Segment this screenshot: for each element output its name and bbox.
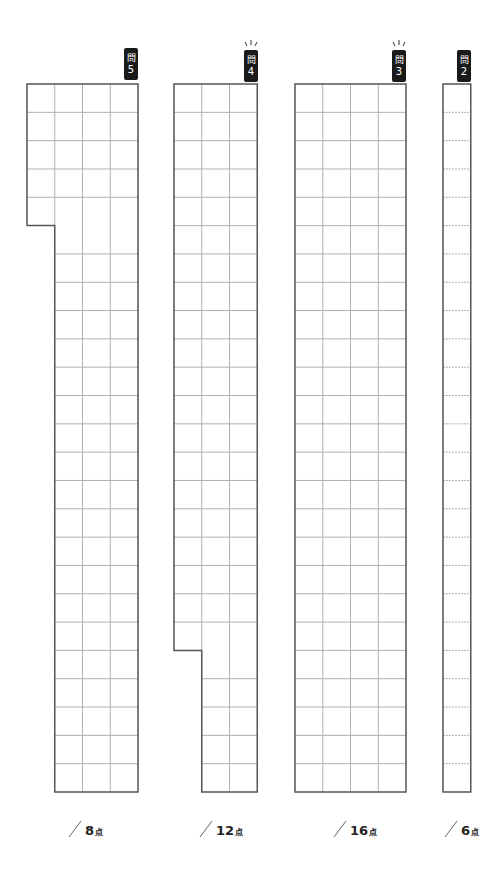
slash-icon (444, 820, 458, 838)
question-2-score: 6 点 (444, 820, 479, 838)
score-unit: 点 (471, 826, 479, 837)
answer-grid-question-2[interactable] (0, 0, 496, 873)
score-value: 6 (461, 823, 470, 838)
